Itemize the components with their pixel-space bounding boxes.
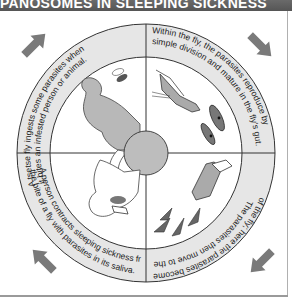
bottom-left-arrow [26, 243, 60, 277]
center-circle [124, 131, 168, 175]
bottom-right-arrow [244, 245, 278, 279]
life-cycle-diagram: A tsetse fly ingests some parasites when… [0, 0, 292, 308]
top-left-arrow [18, 27, 52, 61]
top-right-arrow [244, 29, 278, 63]
